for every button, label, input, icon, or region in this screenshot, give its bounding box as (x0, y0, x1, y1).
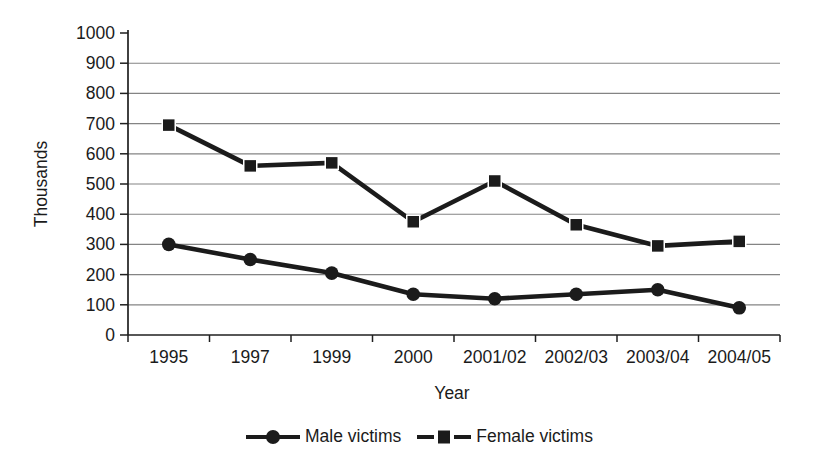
y-tick-label-600: 600 (86, 144, 115, 164)
line-chart-figure: 0100200300400500600700800900100019951997… (0, 0, 818, 468)
x-tick-label-1995: 1995 (149, 347, 188, 367)
marker-female-victims-5 (570, 218, 583, 231)
marker-female-victims-7 (733, 235, 746, 248)
y-tick-label-500: 500 (86, 174, 115, 194)
x-tick-label-2000: 2000 (394, 347, 433, 367)
x-tick-label-1997: 1997 (231, 347, 270, 367)
marker-male-victims-4 (488, 292, 502, 306)
legend: Male victims Female victims (246, 426, 593, 447)
tick-labels-group: 0100200300400500600700800900100019951997… (76, 23, 771, 367)
marker-female-victims-3 (407, 215, 420, 228)
y-tick-label-200: 200 (86, 265, 115, 285)
legend-item-male-victims: Male victims (246, 426, 401, 447)
gridlines-group (128, 63, 780, 305)
y-tick-label-900: 900 (86, 53, 115, 73)
y-tick-label-100: 100 (86, 295, 115, 315)
marker-female-victims-1 (244, 159, 257, 172)
legend-label-female-victims: Female victims (476, 426, 593, 447)
y-tick-label-400: 400 (86, 204, 115, 224)
x-tick-label-2003-04: 2003/04 (626, 347, 690, 367)
marker-male-victims-3 (406, 287, 420, 301)
series-line-female-victims (169, 125, 740, 246)
x-tick-label-2001-02: 2001/02 (463, 347, 526, 367)
x-axis-title: Year (434, 383, 470, 403)
marker-female-victims-4 (488, 174, 501, 187)
y-axis-title: Thousands (31, 140, 51, 227)
series-group (162, 119, 746, 315)
marker-male-victims-6 (651, 283, 665, 297)
y-tick-label-700: 700 (86, 114, 115, 134)
marker-male-victims-7 (732, 301, 746, 315)
marker-male-victims-1 (243, 253, 257, 267)
y-tick-label-0: 0 (105, 325, 115, 345)
series-line-male-victims (169, 244, 740, 307)
marker-female-victims-2 (325, 156, 338, 169)
marker-male-victims-2 (325, 266, 339, 280)
legend-label-male-victims: Male victims (305, 426, 401, 447)
chart-canvas: 0100200300400500600700800900100019951997… (0, 0, 818, 468)
female-series-line-square-marker-icon (417, 429, 471, 445)
x-tick-label-2002-03: 2002/03 (545, 347, 608, 367)
x-tick-label-1999: 1999 (312, 347, 351, 367)
y-tick-label-800: 800 (86, 83, 115, 103)
marker-female-victims-6 (651, 239, 664, 252)
x-tick-label-2004-05: 2004/05 (708, 347, 771, 367)
male-series-line-circle-marker-icon (246, 429, 300, 445)
marker-male-victims-5 (569, 287, 583, 301)
y-tick-label-300: 300 (86, 234, 115, 254)
marker-female-victims-0 (162, 119, 175, 132)
y-tick-label-1000: 1000 (76, 23, 115, 43)
marker-male-victims-0 (162, 238, 176, 252)
legend-item-female-victims: Female victims (417, 426, 593, 447)
